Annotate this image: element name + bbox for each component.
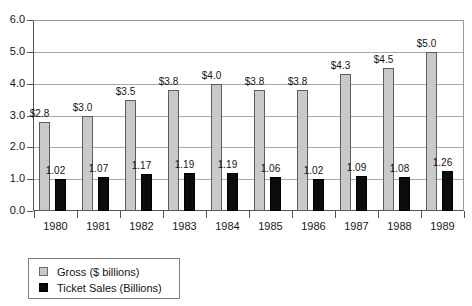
- bar-ticket-sales: [98, 177, 109, 211]
- legend-item-label: Ticket Sales (Billions): [57, 282, 162, 294]
- legend-item: Ticket Sales (Billions): [39, 280, 162, 295]
- x-axis-tick-mark: [77, 211, 78, 218]
- bar-value-label-gross: $3.8: [284, 77, 311, 87]
- bar-gross: [297, 90, 308, 211]
- x-axis-tick-mark: [292, 211, 293, 218]
- bar-chart-figure: 0.01.02.03.04.05.06.0 $2.81.02$3.01.07$3…: [0, 0, 472, 306]
- y-axis-tick-label: 4.0: [0, 78, 25, 89]
- bar-value-label-ticket-sales: 1.19: [214, 160, 241, 170]
- bar-value-label-gross: $4.0: [198, 71, 225, 81]
- y-axis-tick-label: 1.0: [0, 173, 25, 184]
- x-axis-category-label: 1985: [249, 220, 292, 233]
- bar-group: $3.81.02: [292, 20, 335, 211]
- bar-group: $4.01.19: [206, 20, 249, 211]
- x-axis-category-label: 1987: [335, 220, 378, 233]
- bar-value-label-ticket-sales: 1.26: [429, 158, 456, 168]
- bar-gross: [383, 68, 394, 211]
- x-axis-category-label: 1989: [421, 220, 464, 233]
- x-axis-category-label: 1984: [206, 220, 249, 233]
- bar-value-label-ticket-sales: 1.02: [42, 166, 69, 176]
- bar-group: $2.81.02: [34, 20, 77, 211]
- x-axis-tick-mark: [335, 211, 336, 218]
- bar-ticket-sales: [270, 177, 281, 211]
- bar-ticket-sales: [55, 179, 66, 211]
- bar-gross: [426, 52, 437, 211]
- bar-group: $3.81.19: [163, 20, 206, 211]
- x-axis-category-label: 1988: [378, 220, 421, 233]
- y-axis-tick-label: 5.0: [0, 46, 25, 57]
- bar-ticket-sales: [313, 179, 324, 211]
- bar-value-label-ticket-sales: 1.06: [257, 164, 284, 174]
- bar-gross: [340, 74, 351, 211]
- bar-ticket-sales: [356, 176, 367, 211]
- bar-value-label-ticket-sales: 1.07: [85, 164, 112, 174]
- x-axis-tick-mark: [249, 211, 250, 218]
- bar-value-label-gross: $4.3: [327, 61, 354, 71]
- bar-gross: [254, 90, 265, 211]
- bar-value-label-gross: $3.8: [155, 77, 182, 87]
- bar-group: $3.51.17: [120, 20, 163, 211]
- y-axis-tick-label: 2.0: [0, 141, 25, 152]
- bar-value-label-gross: $4.5: [370, 55, 397, 65]
- x-axis-tick-mark: [206, 211, 207, 218]
- bar-group: $3.01.07: [77, 20, 120, 211]
- x-axis-category-label: 1981: [77, 220, 120, 233]
- y-axis: 0.01.02.03.04.05.06.0: [0, 0, 25, 306]
- bar-value-label-gross: $3.5: [112, 87, 139, 97]
- x-axis-tick-mark: [378, 211, 379, 218]
- bar-gross: [211, 84, 222, 211]
- bar-value-label-gross: $2.8: [26, 109, 53, 119]
- x-axis-category-label: 1980: [34, 220, 77, 233]
- chart-legend: Gross ($ billions)Ticket Sales (Billions…: [28, 258, 180, 299]
- bar-group: $5.01.26: [421, 20, 464, 211]
- legend-item: Gross ($ billions): [39, 264, 140, 279]
- bar-gross: [125, 100, 136, 211]
- bar-ticket-sales: [399, 177, 410, 211]
- bar-value-label-gross: $5.0: [413, 39, 440, 49]
- bar-value-label-ticket-sales: 1.08: [386, 164, 413, 174]
- x-axis-tick-mark: [163, 211, 164, 218]
- bar-ticket-sales: [227, 173, 238, 211]
- bar-value-label-gross: $3.8: [241, 77, 268, 87]
- x-axis-category-label: 1983: [163, 220, 206, 233]
- x-axis-tick-mark: [464, 211, 465, 218]
- bar-groups: $2.81.02$3.01.07$3.51.17$3.81.19$4.01.19…: [34, 20, 464, 211]
- x-axis-tick-mark: [421, 211, 422, 218]
- bar-group: $4.31.09: [335, 20, 378, 211]
- x-axis: 1980198119821983198419851986198719881989: [0, 211, 472, 251]
- bar-ticket-sales: [184, 173, 195, 211]
- bar-value-label-gross: $3.0: [69, 103, 96, 113]
- bar-group: $3.81.06: [249, 20, 292, 211]
- x-axis-category-label: 1986: [292, 220, 335, 233]
- bar-value-label-ticket-sales: 1.19: [171, 160, 198, 170]
- x-axis-category-label: 1982: [120, 220, 163, 233]
- bar-value-label-ticket-sales: 1.02: [300, 166, 327, 176]
- bar-value-label-ticket-sales: 1.17: [128, 161, 155, 171]
- bar-value-label-ticket-sales: 1.09: [343, 163, 370, 173]
- y-axis-tick-label: 3.0: [0, 110, 25, 121]
- legend-swatch-tickets: [39, 283, 48, 292]
- bar-ticket-sales: [442, 171, 453, 211]
- x-axis-tick-mark: [120, 211, 121, 218]
- legend-item-label: Gross ($ billions): [57, 266, 140, 278]
- legend-swatch-gross: [39, 267, 48, 276]
- bar-gross: [168, 90, 179, 211]
- y-axis-tick-label: 6.0: [0, 14, 25, 25]
- x-axis-tick-mark: [34, 211, 35, 218]
- bar-ticket-sales: [141, 174, 152, 211]
